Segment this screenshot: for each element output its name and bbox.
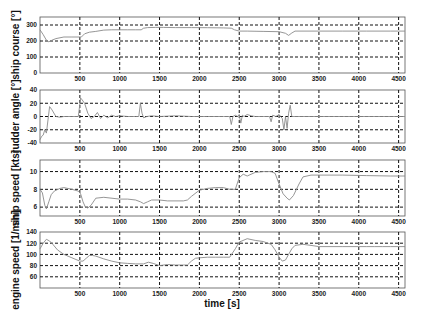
x-tick-label: 1000 (112, 75, 127, 82)
y-tick-label: 6 (33, 203, 37, 210)
figure: 5001000150020002500300035004000450001002… (0, 0, 422, 326)
x-tick-label: 500 (74, 75, 85, 82)
x-tick-label: 4500 (391, 290, 406, 297)
x-tick-label: 2500 (232, 145, 247, 152)
x-tick-label: 500 (74, 145, 85, 152)
y-tick-label: 300 (26, 21, 37, 28)
y-tick-label: 20 (30, 100, 38, 107)
y-axis-label: engine speed [1/min] (10, 210, 21, 309)
y-tick-label: -20 (28, 126, 38, 133)
y-tick-label: -40 (28, 139, 38, 146)
y-tick-label: 80 (30, 262, 38, 269)
x-tick-label: 1500 (152, 290, 167, 297)
y-tick-label: 100 (26, 53, 37, 60)
x-tick-label: 4000 (352, 290, 367, 297)
y-tick-label: 8 (33, 186, 37, 193)
y-tick-label: 120 (26, 240, 37, 247)
x-tick-label: 2000 (192, 145, 207, 152)
x-tick-label: 3000 (272, 145, 287, 152)
rudder-angle-panel: 50010001500200025003000350040004500-40-2… (10, 79, 406, 153)
x-tick-label: 3000 (272, 75, 287, 82)
x-tick-label: 3000 (272, 218, 287, 225)
x-tick-label: 3500 (312, 290, 327, 297)
y-tick-label: 200 (26, 37, 37, 44)
x-tick-label: 4500 (391, 218, 406, 225)
x-tick-label: 500 (74, 290, 85, 297)
x-tick-label: 3500 (312, 145, 327, 152)
x-tick-label: 3500 (312, 218, 327, 225)
x-tick-label: 3500 (312, 75, 327, 82)
x-tick-label: 500 (74, 218, 85, 225)
x-tick-label: 4500 (391, 75, 406, 82)
axes-box (40, 232, 405, 288)
x-tick-label: 2500 (232, 75, 247, 82)
y-axis-label: ship course [°] (10, 10, 21, 80)
x-tick-label: 2500 (232, 218, 247, 225)
x-tick-label: 1000 (112, 145, 127, 152)
y-axis-label: rudder angle [°] (10, 79, 21, 153)
x-tick-label: 4500 (391, 145, 406, 152)
ship-speed-panel: 500100015002000250030003500400045006810s… (10, 150, 406, 226)
y-tick-label: 10 (30, 168, 38, 175)
x-tick-label: 1500 (152, 218, 167, 225)
x-tick-label: 4000 (352, 145, 367, 152)
ship-course-panel: 5001000150020002500300035004000450001002… (10, 10, 406, 82)
x-tick-label: 1000 (112, 218, 127, 225)
y-tick-label: 100 (26, 251, 37, 258)
x-tick-label: 1500 (152, 75, 167, 82)
y-tick-label: 60 (30, 273, 38, 280)
engine-speed-panel: 5001000150020002500300035004000450060801… (10, 210, 406, 309)
x-tick-label: 4000 (352, 218, 367, 225)
x-tick-label: 1000 (112, 290, 127, 297)
x-tick-label: 2000 (192, 75, 207, 82)
x-tick-label: 3000 (272, 290, 287, 297)
x-tick-label: 2000 (192, 218, 207, 225)
y-tick-label: 40 (30, 86, 38, 93)
x-tick-label: 4000 (352, 75, 367, 82)
x-tick-label: 1500 (152, 145, 167, 152)
y-tick-label: 140 (26, 228, 37, 235)
y-tick-label: 0 (33, 69, 37, 76)
y-tick-label: 0 (33, 113, 37, 120)
x-tick-label: 2500 (232, 290, 247, 297)
x-tick-label: 2000 (192, 290, 207, 297)
x-axis-label: time [s] (204, 298, 240, 309)
